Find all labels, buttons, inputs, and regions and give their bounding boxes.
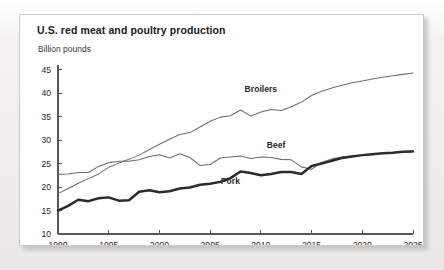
x-axis-tick-label: 2025: [403, 240, 422, 245]
x-axis-tick-label: 2000: [150, 240, 169, 245]
y-axis-tick-label: 15: [41, 206, 51, 216]
x-axis-tick-label: 2020: [353, 240, 372, 245]
chart-card-inner: U.S. red meat and poultry production Bil…: [20, 15, 423, 245]
screenshot-root: U.S. red meat and poultry production Bil…: [0, 0, 444, 270]
y-axis-tick-label: 20: [41, 182, 51, 192]
x-axis-tick-label: 2010: [251, 240, 270, 245]
chart-card: U.S. red meat and poultry production Bil…: [19, 14, 424, 246]
x-axis-tick-label: 2015: [302, 240, 321, 245]
x-axis-tick-label: 1995: [99, 240, 118, 245]
series-label-beef: Beef: [267, 140, 286, 150]
line-chart-plot: 1015202530354045199019952000200520102015…: [20, 15, 423, 245]
y-axis-tick-label: 10: [41, 229, 51, 239]
x-axis-tick-label: 1990: [48, 240, 67, 245]
y-axis-tick-label: 40: [41, 88, 51, 98]
y-axis-tick-label: 35: [41, 112, 51, 122]
series-label-pork: Pork: [221, 176, 240, 186]
series-label-broilers: Broilers: [245, 84, 278, 94]
y-axis-tick-label: 30: [41, 135, 51, 145]
x-axis-tick-label: 2005: [201, 240, 220, 245]
y-axis-tick-label: 45: [41, 65, 51, 75]
y-axis-tick-label: 25: [41, 159, 51, 169]
